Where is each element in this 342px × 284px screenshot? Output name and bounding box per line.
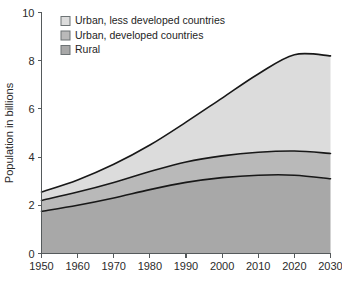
y-tick-label: 10 [22,7,34,19]
chart-figure: 0246810 19501960197019801990200020102020… [0,0,342,284]
x-tick-label: 2010 [246,260,270,272]
x-tick-label: 2000 [210,260,234,272]
y-tick-label: 8 [28,55,34,67]
area-bands [42,54,331,254]
chart-legend: Urban, less developed countriesUrban, de… [61,14,225,55]
legend-label: Rural [75,43,100,55]
legend-swatch [61,17,70,26]
x-tick-label: 1970 [102,260,126,272]
y-tick-label: 4 [28,151,34,163]
legend-label: Urban, less developed countries [75,14,225,26]
legend-swatch [61,46,70,55]
population-area-chart: 0246810 19501960197019801990200020102020… [0,0,342,284]
y-axis-ticks: 0246810 [22,7,41,260]
y-tick-label: 6 [28,103,34,115]
x-tick-label: 2020 [282,260,306,272]
x-tick-label: 1950 [29,260,53,272]
y-tick-label: 0 [28,248,34,260]
legend-swatch [61,31,70,40]
y-axis-title: Population in billions [3,82,15,183]
x-tick-label: 2030 [318,260,342,272]
legend-label: Urban, developed countries [75,29,203,41]
x-tick-label: 1960 [65,260,89,272]
x-tick-label: 1990 [174,260,198,272]
x-axis-ticks: 195019601970198019902000201020202030 [29,254,342,272]
x-tick-label: 1980 [138,260,162,272]
y-tick-label: 2 [28,199,34,211]
